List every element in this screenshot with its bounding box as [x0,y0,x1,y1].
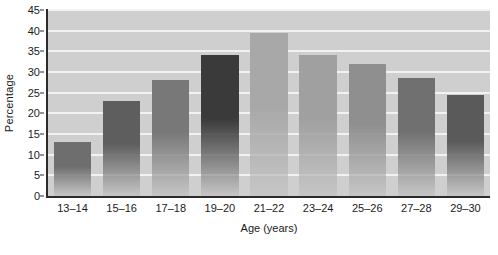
y-axis-tick-labels: 051015202530354045 [18,0,44,206]
y-tick-label: 40 [28,25,40,37]
bar-slot [146,10,195,196]
bar-slot [195,10,244,196]
y-tick-label: 10 [28,149,40,161]
bar-slot [441,10,490,196]
y-tick-mark [40,113,44,114]
bar-slot [343,10,392,196]
y-tick-mark [40,51,44,52]
bar [152,80,189,196]
x-tick-label: 21–22 [244,202,293,214]
bar [447,95,484,196]
bar-slot [97,10,146,196]
x-axis-tick-labels: 13–1415–1617–1819–2021–2223–2425–2627–28… [48,202,490,214]
y-tick-label: 25 [28,87,40,99]
bar-slot [294,10,343,196]
x-tick-label: 29–30 [441,202,490,214]
y-tick-label: 35 [28,45,40,57]
x-axis-line [46,196,490,198]
bar-slot [392,10,441,196]
bar [103,101,140,196]
y-tick-label: 45 [28,4,40,16]
y-axis-title-text: Percentage [3,74,15,132]
y-tick-mark [40,154,44,155]
x-tick-label: 17–18 [146,202,195,214]
y-axis-title: Percentage [0,0,18,206]
y-tick-mark [40,30,44,31]
x-tick-label: 25–26 [343,202,392,214]
plot-area [48,10,490,196]
bar-slot [244,10,293,196]
bar [201,55,238,196]
bar [349,64,386,196]
bar-chart-figure: Percentage 051015202530354045 13–1415–16… [0,0,498,255]
y-tick-label: 30 [28,66,40,78]
bars-container [48,10,490,196]
x-tick-label: 13–14 [48,202,97,214]
x-tick-label: 23–24 [294,202,343,214]
y-tick-mark [40,72,44,73]
bar [54,142,91,196]
x-tick-label: 27–28 [392,202,441,214]
y-tick-label: 20 [28,107,40,119]
y-tick-mark [40,196,44,197]
bar-slot [48,10,97,196]
bar [250,33,287,196]
x-axis-title: Age (years) [48,222,490,234]
y-tick-mark [40,10,44,11]
bar [398,78,435,196]
y-tick-mark [40,175,44,176]
y-tick-mark [40,92,44,93]
x-tick-label: 15–16 [97,202,146,214]
bar [299,55,336,196]
x-tick-label: 19–20 [195,202,244,214]
y-tick-label: 15 [28,128,40,140]
y-tick-mark [40,134,44,135]
